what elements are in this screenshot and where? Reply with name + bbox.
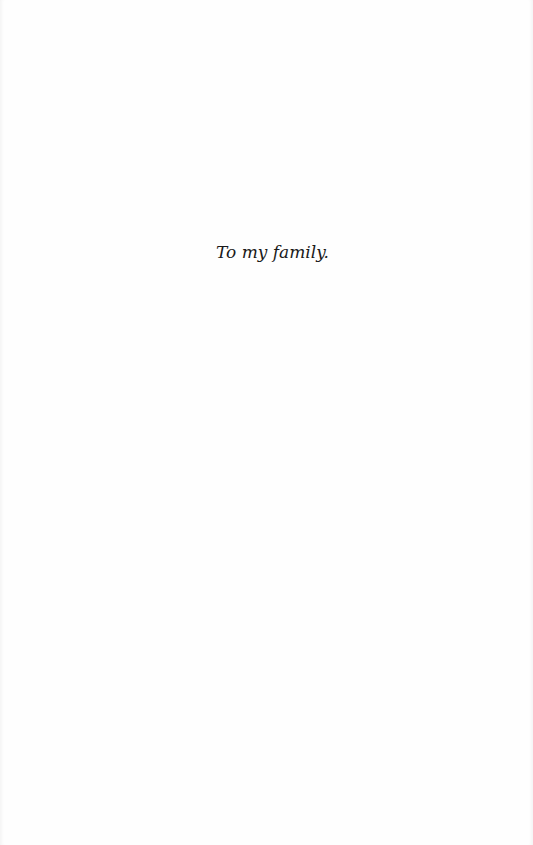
- book-page: To my family.: [0, 0, 533, 845]
- dedication-text: To my family.: [0, 242, 533, 262]
